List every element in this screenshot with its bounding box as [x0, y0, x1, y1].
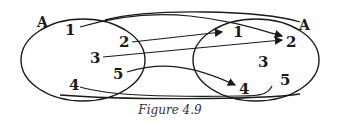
- left-element-1: 1: [65, 23, 75, 38]
- left-element-4: 4: [69, 78, 79, 93]
- right-element-1: 1: [233, 25, 243, 40]
- arrow-3-to-2: [103, 40, 282, 57]
- left-set-ellipse: [21, 19, 145, 101]
- left-element-2: 2: [119, 35, 129, 50]
- arrow-1-to-2: [80, 15, 282, 36]
- left-element-5: 5: [113, 67, 123, 82]
- right-set-label: A: [299, 17, 310, 33]
- right-element-4: 4: [239, 82, 249, 97]
- arrow-2-to-1: [132, 32, 222, 42]
- figure-caption: Figure 4.9: [0, 103, 340, 117]
- left-element-3: 3: [90, 51, 100, 66]
- right-element-3: 3: [258, 55, 268, 70]
- left-set-label: A: [37, 14, 48, 30]
- right-element-2: 2: [286, 35, 296, 50]
- right-element-5: 5: [280, 73, 290, 88]
